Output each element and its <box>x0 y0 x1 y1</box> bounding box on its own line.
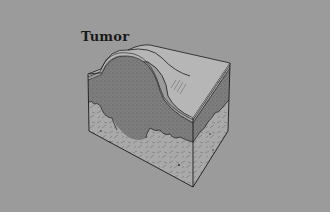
tumor-label: Tumor <box>81 29 129 44</box>
skin-tumor-illustration <box>0 0 336 218</box>
